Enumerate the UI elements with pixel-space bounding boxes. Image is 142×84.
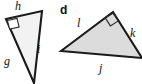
- side-label-j: j: [99, 62, 102, 74]
- side-label-i: i: [37, 43, 40, 55]
- left-triangle-right-angle-marker: [7, 18, 19, 29]
- diagram-canvas: [0, 0, 142, 84]
- side-label-h: h: [15, 0, 21, 12]
- side-label-k: k: [130, 27, 135, 39]
- geometry-diagram: h i g d l k j: [0, 0, 142, 84]
- side-label-g: g: [4, 55, 10, 67]
- side-label-l: l: [77, 17, 80, 29]
- part-label-d: d: [60, 4, 67, 16]
